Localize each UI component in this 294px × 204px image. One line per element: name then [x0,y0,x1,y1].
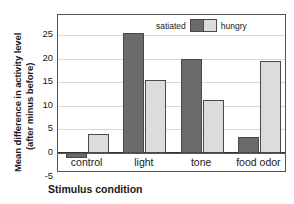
y-tick-label: 15 [42,77,53,87]
y-axis-tick-labels: 2520151050-5 [30,0,56,190]
bar-series-group [58,15,285,171]
y-tick-label: 5 [48,124,53,134]
legend-swatch-hungry [203,20,216,31]
bar-satiated-light [123,33,144,153]
bar-hungry-food-odor [260,61,281,153]
x-tick-label: tone [191,156,211,168]
legend-label-hungry: hungry [221,21,247,31]
x-axis-label-band: controllighttonefood odor [58,153,285,173]
y-tick-label: 0 [48,147,53,157]
bar-hungry-light [145,80,166,153]
x-tick-label: control [71,156,103,168]
bar-satiated-tone [181,59,202,153]
x-tick-label: light [134,156,153,168]
y-tick-label: 20 [42,53,53,63]
bar-hungry-control [88,134,109,153]
legend-swatch-satiated [191,20,203,31]
y-tick-label: -5 [45,171,53,181]
y-tick-label: 25 [42,29,53,39]
bar-chart-figure: Mean difference in activity level (after… [0,0,294,204]
y-axis-title: Mean difference in activity level (after… [0,0,30,178]
y-tick-label: 10 [42,100,53,110]
x-axis-title: Stimulus condition [48,183,143,195]
y-axis-title-line-1: Mean difference in activity level [12,33,23,172]
chart-legend: satiated hungry [156,18,247,33]
bar-satiated-food-odor [238,137,259,153]
bar-hungry-tone [203,100,224,153]
legend-swatches [190,19,217,32]
legend-label-satiated: satiated [156,21,186,31]
x-tick-label: food odor [236,156,280,168]
plot-area: controllighttonefood odor satiated hungr… [57,14,286,172]
